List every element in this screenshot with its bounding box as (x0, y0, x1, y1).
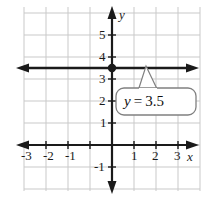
x-tick-label-2: 2 (152, 149, 159, 162)
y-tick-label-neg1: -1 (94, 160, 105, 173)
y-tick-label-2: 2 (99, 94, 106, 107)
equation-lhs: y (124, 93, 131, 109)
coordinate-plane-figure: y x 5 4 3 2 1 -1 -3 -2 -1 1 2 3 y=3.5 (0, 0, 201, 200)
y-axis (108, 6, 117, 194)
y-tick-label-3: 3 (99, 72, 106, 85)
y-intercept-point (108, 64, 116, 72)
equation-operator: = (134, 93, 142, 109)
y-tick-label-4: 4 (99, 50, 106, 63)
graph-line-y-equals-3-5 (16, 64, 199, 73)
equation-rhs: 3.5 (145, 93, 164, 109)
x-tick-label-neg2: -2 (43, 149, 54, 162)
y-tick-label-1: 1 (100, 116, 107, 129)
equation-label: y=3.5 (124, 93, 164, 110)
y-axis-label: y (119, 8, 125, 21)
y-tick-label-5: 5 (99, 28, 106, 41)
x-tick-label-3: 3 (174, 149, 181, 162)
x-tick-label-neg1: -1 (65, 149, 76, 162)
x-tick-label-1: 1 (131, 149, 138, 162)
x-axis-label: x (187, 150, 193, 163)
x-tick-label-neg3: -3 (21, 149, 32, 162)
